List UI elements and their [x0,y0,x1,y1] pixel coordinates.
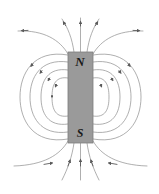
open-line-top-left-inner [62,19,74,52]
field-lines-svg [0,0,159,194]
closed-loop-right-3 [93,61,131,132]
closed-loop-right-1 [93,78,109,117]
magnetic-field-figure: N S [0,0,159,194]
north-pole-label: N [67,55,93,68]
closed-loop-left-4 [20,54,68,140]
south-pole-label: S [67,127,93,139]
closed-loop-left-3 [30,61,68,132]
open-line-top-right-inner [87,19,99,52]
open-line-bottom-right-outer [93,141,147,166]
open-line-bottom-left-inner [62,143,74,180]
closed-loop-left-1 [52,78,68,117]
closed-loop-right-4 [93,54,141,140]
open-line-bottom-left-outer [14,141,68,166]
open-line-top-left-outer [18,30,68,54]
open-line-top-right-outer [93,30,143,54]
open-line-bottom-right-inner [87,143,99,180]
